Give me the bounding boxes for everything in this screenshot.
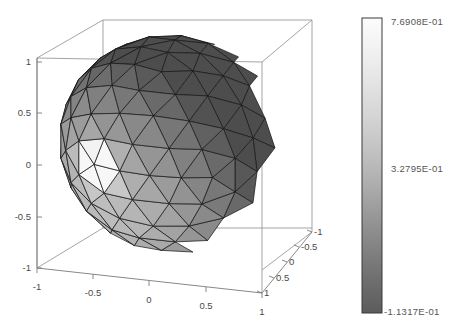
y-tick-label-3: 0.5 — [276, 272, 289, 283]
y-tick-label-2: 0 — [289, 256, 294, 267]
z-tick-label-0: 1 — [26, 56, 31, 67]
y-tick-mark-3 — [269, 276, 274, 278]
plot-svg: 1 0.5 0 -0.5 -1 -1 -0.5 0 0.5 1 -1 — [0, 0, 467, 332]
colorbar: 7.6908E-01 3.2795E-01 -1.1317E-01 — [362, 16, 443, 317]
z-tick-label-2: 0 — [26, 159, 31, 170]
x-tick-label-0: -1 — [33, 281, 41, 292]
x-tick-label-4: 1 — [259, 306, 264, 317]
colorbar-label-max: 7.6908E-01 — [391, 16, 443, 27]
z-axis-ticks: 1 0.5 0 -0.5 -1 — [15, 56, 42, 273]
box-edge-bottom-left-diag — [37, 228, 103, 268]
sphere-surface-mesh — [61, 36, 275, 252]
y-axis-ticks: -1 -0.5 0 0.5 1 — [257, 226, 322, 298]
x-tick-label-1: -0.5 — [85, 287, 101, 298]
z-tick-label-3: -0.5 — [15, 211, 31, 222]
box-edge-bottom-front — [37, 268, 262, 293]
colorbar-label-mid: 3.2795E-01 — [391, 163, 443, 174]
figure-canvas: 1 0.5 0 -0.5 -1 -1 -0.5 0 0.5 1 -1 — [0, 0, 467, 332]
x-tick-label-2: 0 — [146, 294, 151, 305]
y-tick-label-1: -0.5 — [301, 241, 317, 252]
x-axis-ticks: -1 -0.5 0 0.5 1 — [33, 268, 265, 317]
z-tick-label-1: 0.5 — [18, 107, 31, 118]
z-tick-label-4: -1 — [23, 262, 31, 273]
y-tick-label-4: 1 — [264, 287, 269, 298]
y-tick-label-0: -1 — [314, 226, 322, 237]
x-tick-label-3: 0.5 — [199, 300, 212, 311]
colorbar-gradient — [362, 18, 382, 313]
colorbar-label-min: -1.1317E-01 — [384, 306, 440, 317]
y-tick-mark-2 — [282, 260, 287, 262]
y-tick-mark-0 — [307, 230, 312, 232]
y-tick-mark-1 — [294, 245, 299, 247]
